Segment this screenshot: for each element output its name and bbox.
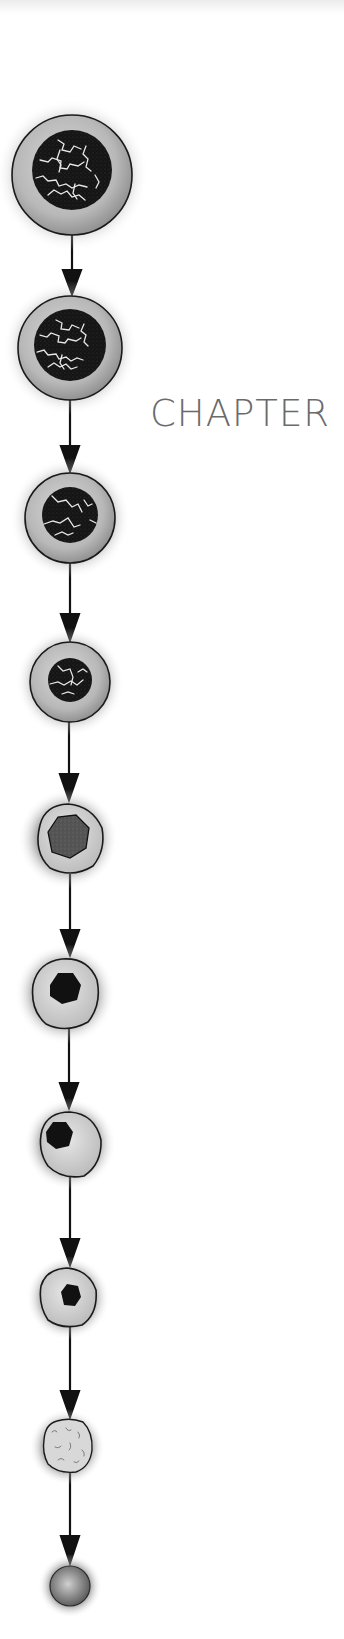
cell-stage-5 bbox=[18, 789, 118, 889]
cell-stage-8 bbox=[26, 1256, 110, 1340]
cell-stage-6 bbox=[15, 944, 115, 1044]
cell-stage-9 bbox=[29, 1409, 105, 1485]
cell-progression-diagram bbox=[0, 0, 160, 1639]
cell-stage-1 bbox=[0, 99, 148, 251]
chapter-heading: CHAPTER bbox=[150, 392, 330, 435]
cell-stage-3 bbox=[10, 458, 130, 578]
cell-stage-10 bbox=[38, 1554, 102, 1618]
cell-stage-4 bbox=[16, 628, 124, 736]
progression-arrows bbox=[60, 235, 81, 1563]
cell-stage-7 bbox=[24, 1098, 116, 1190]
cell-stage-2 bbox=[3, 281, 137, 415]
